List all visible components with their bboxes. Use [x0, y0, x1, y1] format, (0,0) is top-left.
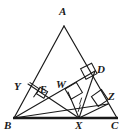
label-Y: Y — [14, 81, 21, 92]
right-angle-at-W — [65, 82, 82, 99]
label-W: W — [56, 79, 66, 90]
geometry-canvas — [0, 0, 129, 135]
label-Z: Z — [108, 91, 115, 102]
label-X: X — [75, 120, 82, 131]
label-B: B — [4, 120, 11, 131]
tick-marks-XD — [78, 98, 81, 112]
label-A: A — [59, 6, 66, 17]
side-AB — [14, 26, 64, 118]
label-C: C — [111, 120, 118, 131]
label-E: E — [40, 85, 47, 95]
side-AC — [64, 26, 117, 118]
label-D: D — [97, 64, 105, 75]
geometry-figure: A B C D E W X Y Z — [0, 0, 129, 135]
